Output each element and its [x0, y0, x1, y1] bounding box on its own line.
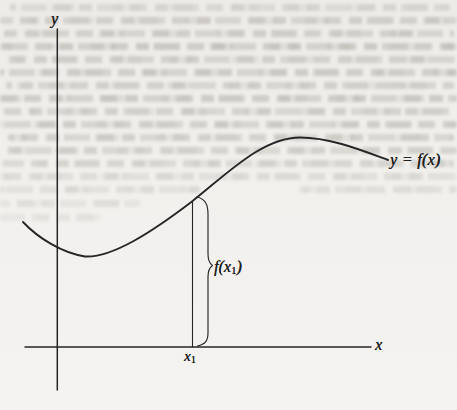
curve-equation-label: y = f(x) — [390, 151, 441, 169]
scanned-textbook-figure: y x y = f(x) f(x1) x1 — [0, 0, 457, 410]
ordinate-value-label-close: ) — [236, 258, 241, 275]
x1-point-label-subscript: 1 — [191, 354, 196, 365]
value-brace — [197, 197, 213, 346]
x1-point-label-main: x — [184, 348, 191, 364]
figure-canvas — [0, 0, 457, 410]
y-axis-label: y — [51, 10, 58, 28]
ordinate-value-label: f(x1) — [214, 258, 242, 277]
x1-point-label: x1 — [184, 348, 196, 365]
x-axis-label: x — [375, 336, 382, 354]
ordinate-value-label-main: f(x — [214, 258, 231, 275]
function-curve — [23, 138, 388, 257]
